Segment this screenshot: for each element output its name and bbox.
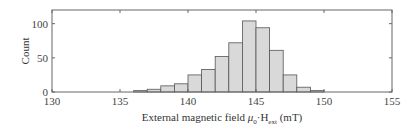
y-tick-label: 50 <box>37 52 49 64</box>
y-tick-label: 100 <box>32 18 49 30</box>
histogram-bar <box>297 87 311 92</box>
histogram-bar <box>283 75 297 92</box>
histogram-bar <box>188 75 202 92</box>
y-axis-label: Count <box>19 38 31 65</box>
x-tick-label: 145 <box>248 95 265 107</box>
histogram-chart: 130135140145150155 050100 Count External… <box>0 0 415 136</box>
histogram-bar <box>270 50 284 92</box>
histogram-bar <box>202 69 216 92</box>
histogram-bar <box>242 21 256 92</box>
histogram-bars <box>134 21 324 92</box>
x-tick-label: 150 <box>316 95 333 107</box>
x-tick-label: 135 <box>112 95 129 107</box>
histogram-bar <box>229 43 243 92</box>
histogram-bar <box>256 28 270 92</box>
histogram-bar <box>215 56 229 92</box>
x-axis-label: External magnetic field μ0·Hext (mT) <box>142 111 303 126</box>
histogram-bar <box>174 84 188 92</box>
x-tick-label: 155 <box>384 95 401 107</box>
x-tick-label: 140 <box>180 95 197 107</box>
y-tick-label: 0 <box>43 86 49 98</box>
histogram-bar <box>161 86 175 92</box>
